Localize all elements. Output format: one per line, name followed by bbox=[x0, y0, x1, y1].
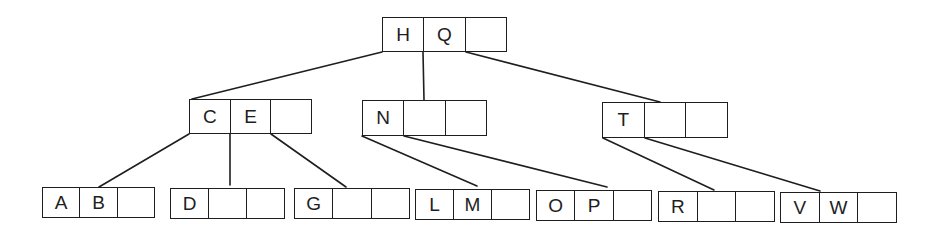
key-cell: N bbox=[363, 101, 403, 135]
key-cell: D bbox=[171, 189, 208, 218]
empty-key-cell bbox=[697, 192, 736, 221]
empty-key-cell bbox=[685, 103, 727, 137]
key-cell: O bbox=[537, 191, 574, 220]
edge-ce-g bbox=[271, 134, 346, 187]
key-cell: H bbox=[383, 18, 423, 51]
empty-key-cell bbox=[613, 191, 651, 220]
key-cell: E bbox=[230, 100, 271, 133]
empty-key-cell bbox=[644, 103, 686, 137]
empty-key-cell bbox=[735, 192, 774, 221]
edge-n-lm bbox=[362, 136, 477, 186]
empty-key-cell bbox=[270, 100, 311, 133]
key-cell: A bbox=[43, 188, 79, 217]
empty-key-cell bbox=[465, 18, 506, 51]
tree-node-g: G bbox=[294, 188, 410, 219]
empty-key-cell bbox=[246, 189, 284, 218]
empty-key-cell bbox=[208, 189, 246, 218]
key-cell: P bbox=[574, 191, 612, 220]
empty-key-cell bbox=[857, 193, 896, 222]
edge-ce-ab bbox=[99, 134, 189, 187]
tree-node-op: OP bbox=[536, 190, 652, 221]
key-cell: V bbox=[781, 193, 819, 222]
edge-root-ce bbox=[192, 52, 382, 99]
empty-key-cell bbox=[117, 188, 154, 217]
empty-key-cell bbox=[371, 189, 409, 218]
tree-node-ab: AB bbox=[42, 187, 155, 218]
key-cell: R bbox=[659, 192, 697, 221]
tree-node-d: D bbox=[170, 188, 285, 219]
key-cell: Q bbox=[423, 18, 464, 51]
key-cell: B bbox=[79, 188, 116, 217]
tree-node-root: HQ bbox=[382, 17, 507, 52]
edge-n-op bbox=[404, 136, 607, 187]
tree-node-r: R bbox=[658, 191, 775, 222]
edge-t-r bbox=[603, 138, 714, 190]
tree-node-vw: VW bbox=[780, 192, 897, 223]
edge-root-t bbox=[466, 52, 660, 102]
tree-node-lm: LM bbox=[415, 189, 530, 220]
key-cell: G bbox=[295, 189, 332, 218]
edge-root-n bbox=[423, 52, 424, 100]
empty-key-cell bbox=[491, 190, 529, 219]
key-cell: W bbox=[819, 193, 858, 222]
edge-t-vw bbox=[645, 138, 820, 191]
key-cell: L bbox=[416, 190, 453, 219]
key-cell: T bbox=[603, 103, 644, 137]
tree-node-n: N bbox=[362, 100, 487, 136]
tree-node-ce: CE bbox=[189, 99, 312, 134]
empty-key-cell bbox=[403, 101, 444, 135]
key-cell: C bbox=[190, 100, 230, 133]
key-cell: M bbox=[453, 190, 491, 219]
empty-key-cell bbox=[445, 101, 486, 135]
tree-node-t: T bbox=[602, 102, 728, 138]
empty-key-cell bbox=[332, 189, 370, 218]
